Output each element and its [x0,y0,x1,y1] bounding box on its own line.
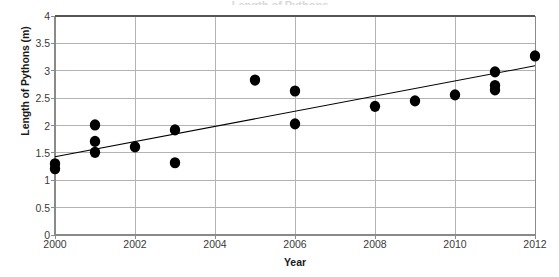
data-point [170,124,180,135]
data-point [250,74,260,85]
data-point [450,89,460,100]
data-point [530,50,540,61]
scatter-chart: Length of Pythons Length of Pythons (m) … [0,0,559,277]
data-point [90,119,100,130]
data-point [410,95,420,106]
data-point [130,141,140,152]
data-point [90,147,100,158]
data-point [490,84,500,95]
data-point [490,66,500,77]
data-point [50,163,60,174]
data-point [170,157,180,168]
data-point [290,85,300,96]
plot-area [0,0,559,277]
data-point [90,136,100,147]
data-point [370,101,380,112]
data-point [290,118,300,129]
